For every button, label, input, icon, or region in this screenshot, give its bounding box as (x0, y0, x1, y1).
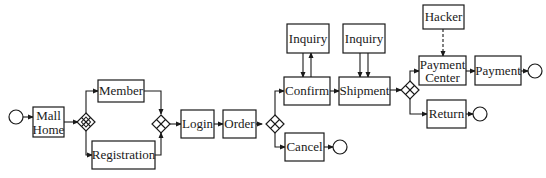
node-hacker[interactable]: Hacker (423, 5, 464, 29)
node-login[interactable]: Login (181, 110, 214, 138)
edge-registration-gw2 (155, 133, 161, 155)
edge-member-gw2 (144, 91, 161, 114)
end-event-cancel-icon (333, 140, 347, 154)
hacker-label: Hacker (425, 9, 463, 24)
return-label: Return (429, 106, 465, 121)
node-member[interactable]: Member (98, 80, 144, 102)
node-cancel[interactable]: Cancel (285, 133, 324, 161)
edge-gw1-member (86, 91, 98, 113)
inquiry-1-label: Inquiry (289, 31, 328, 46)
node-payment-center[interactable]: Payment Center (419, 56, 466, 85)
node-registration[interactable]: Registration (92, 141, 156, 169)
end-event-return-icon (473, 107, 487, 121)
registration-label: Registration (92, 147, 156, 162)
payment-center-label-2: Center (425, 70, 460, 85)
node-order[interactable]: Order (223, 110, 256, 138)
node-confirm[interactable]: Confirm (284, 77, 330, 105)
confirm-label: Confirm (285, 83, 329, 98)
login-label: Login (182, 116, 214, 131)
inquiry-2-label: Inquiry (345, 31, 384, 46)
node-inquiry-2[interactable]: Inquiry (343, 24, 385, 53)
process-flow-diagram: Mall Home Member Registration Login Orde… (0, 0, 546, 178)
edge-gw4-return (410, 99, 427, 114)
node-mall-home[interactable]: Mall Home (33, 107, 65, 137)
gateway-1-icon (77, 113, 95, 131)
payment-label: Payment (475, 63, 521, 78)
gateway-4-icon (401, 81, 419, 99)
edge-gw3-cancel (275, 133, 285, 147)
mall-home-label-2: Home (33, 122, 65, 137)
mall-home-label-1: Mall (36, 108, 61, 123)
member-label: Member (99, 83, 144, 98)
edge-gw3-confirm (275, 91, 284, 115)
cancel-label: Cancel (286, 139, 322, 154)
node-payment[interactable]: Payment (475, 56, 521, 85)
node-shipment[interactable]: Shipment (339, 77, 390, 105)
order-label: Order (224, 116, 255, 131)
shipment-label: Shipment (340, 83, 390, 98)
end-event-payment-icon (528, 64, 542, 78)
edge-gw4-paymentcenter (410, 71, 419, 81)
node-return[interactable]: Return (427, 100, 466, 128)
node-inquiry-1[interactable]: Inquiry (287, 24, 329, 53)
gateway-2-icon (152, 115, 170, 133)
start-event-icon (9, 110, 23, 124)
gateway-3-icon (266, 115, 284, 133)
